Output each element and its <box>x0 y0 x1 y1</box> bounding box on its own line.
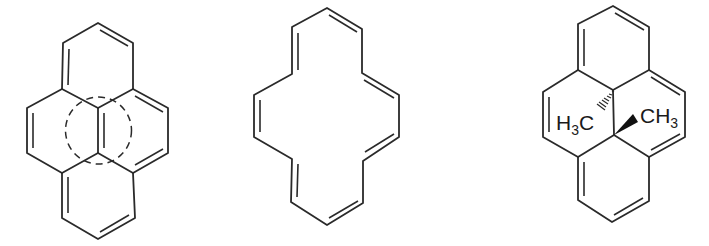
ddhp-upper-ring <box>578 6 649 70</box>
pyrene-double-bond <box>135 149 163 165</box>
solid-wedge-bond <box>614 114 638 135</box>
pyrene-double-bond <box>68 49 69 85</box>
annulene-structure <box>254 8 399 225</box>
pyrene-bond <box>98 153 133 173</box>
annulene-ring <box>254 8 399 225</box>
pyrene-upper-ring <box>62 23 133 89</box>
ddhp-bond <box>613 70 649 90</box>
ddhp-central-bond <box>613 90 614 135</box>
ddhp-bond <box>578 135 614 157</box>
ddhp-bond <box>614 135 649 157</box>
pyrene-lower-ring <box>62 173 135 239</box>
methyl-label-left: H3C <box>556 111 594 138</box>
pyrene-bond <box>98 89 133 108</box>
ddhp-bond <box>578 70 613 90</box>
annulene-double-bond <box>297 164 298 197</box>
hashed-wedge-bond <box>597 91 614 110</box>
ddhp-lower-ring <box>578 157 649 222</box>
chemical-structures-figure: H3C CH3 <box>0 0 709 246</box>
methyl-label-right: CH3 <box>640 104 678 131</box>
pyrene-right-ring <box>133 89 168 173</box>
pyrene-structure <box>27 23 168 239</box>
pyrene-bond <box>62 153 98 173</box>
pyrene-bond <box>62 89 98 108</box>
dimethyldihydropyrene-structure: H3C CH3 <box>543 6 685 222</box>
